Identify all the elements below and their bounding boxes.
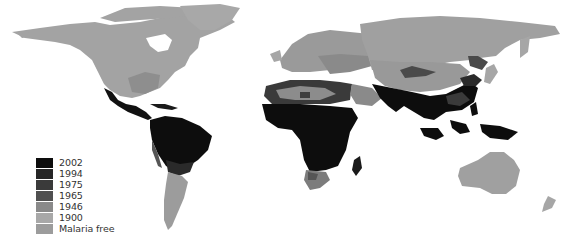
legend-label: 1994 xyxy=(59,168,83,179)
sub-saharan-africa xyxy=(262,104,362,190)
south-america xyxy=(150,116,212,230)
north-asia xyxy=(360,16,560,92)
japan xyxy=(484,64,498,84)
swatch-1900 xyxy=(36,213,53,223)
legend-item-1994: 1994 xyxy=(36,168,114,179)
legend-item-1965: 1965 xyxy=(36,190,114,201)
swatch-2002 xyxy=(36,158,53,168)
caribbean xyxy=(150,104,178,110)
legend-label: 1965 xyxy=(59,190,83,201)
legend-label: 1900 xyxy=(59,212,83,223)
legend-label: 2002 xyxy=(59,157,83,168)
swatch-1975 xyxy=(36,180,53,190)
new-zealand xyxy=(542,196,556,212)
swatch-1946 xyxy=(36,202,53,212)
north-africa-middle-east xyxy=(264,80,382,106)
legend-item-1975: 1975 xyxy=(36,179,114,190)
swatch-1994 xyxy=(36,169,53,179)
legend: 2002 1994 1975 1965 1946 1900 Malaria fr… xyxy=(36,157,114,234)
swatch-1965 xyxy=(36,191,53,201)
legend-label: 1975 xyxy=(59,179,83,190)
legend-item-1900: 1900 xyxy=(36,212,114,223)
legend-item-malaria-free: Malaria free xyxy=(36,223,114,234)
legend-label: Malaria free xyxy=(59,223,114,234)
swatch-malaria-free xyxy=(36,224,53,234)
australia xyxy=(458,152,520,194)
europe xyxy=(270,30,372,74)
legend-label: 1946 xyxy=(59,201,83,212)
legend-item-1946: 1946 xyxy=(36,201,114,212)
legend-item-2002: 2002 xyxy=(36,157,114,168)
